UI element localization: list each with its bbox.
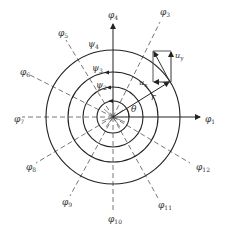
label-uy: uy bbox=[175, 51, 184, 62]
label-phi-8: φ8 bbox=[26, 162, 36, 173]
label-phi-6: φ6 bbox=[20, 67, 30, 78]
label-phi-1: φ1 bbox=[205, 114, 215, 125]
label-psi-4: ψ4 bbox=[88, 39, 99, 50]
arrow-psi-1-icon bbox=[108, 99, 113, 103]
label-phi-7: φ7 bbox=[14, 114, 24, 125]
label-r: r bbox=[151, 92, 156, 102]
polar-coordinate-diagram: φ1φ3φ4φ5φ6φ7φ8φ9φ10φ11φ12ψ4ψ3ψ2 r θ ux u… bbox=[0, 0, 229, 233]
vector-u bbox=[154, 52, 170, 82]
velocity-components bbox=[153, 51, 171, 82]
label-phi-3: φ3 bbox=[160, 7, 170, 18]
label-psi-3: ψ3 bbox=[92, 63, 103, 74]
label-psi-2: ψ2 bbox=[96, 80, 107, 91]
label-phi-12: φ12 bbox=[196, 162, 210, 173]
label-ux: ux bbox=[139, 78, 148, 88]
label-phi-4: φ4 bbox=[108, 10, 118, 21]
line-phi-11 bbox=[113, 117, 158, 198]
arrow-psi-3-icon bbox=[104, 71, 109, 75]
label-phi-10: φ10 bbox=[108, 214, 122, 225]
label-phi-9: φ9 bbox=[62, 197, 72, 208]
label-phi-11: φ11 bbox=[158, 200, 172, 211]
label-phi-5: φ5 bbox=[58, 28, 68, 39]
label-theta: θ bbox=[131, 104, 137, 114]
